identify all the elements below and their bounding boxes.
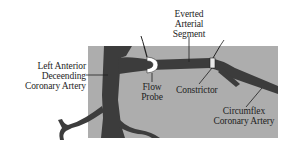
coronary-diagram: Left Anterior Deceending Coronary Artery… (0, 0, 294, 149)
label-flow-probe: Flow Probe (134, 82, 170, 102)
label-circumflex-coronary-artery: Circumflex Coronary Artery (206, 106, 282, 126)
label-lad: Left Anterior Deceending Coronary Artery (6, 61, 86, 91)
label-constrictor: Constrictor (176, 85, 218, 95)
label-everted-arterial-segment: Everted Arterial Segment (166, 9, 212, 39)
